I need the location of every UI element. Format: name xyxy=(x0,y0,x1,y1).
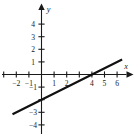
x-axis-label: x xyxy=(123,62,128,71)
y-tick-label-1: 1 xyxy=(31,58,35,67)
y-tick-label-2: 2 xyxy=(31,45,35,54)
x-axis-group xyxy=(2,71,134,77)
y-axis-group xyxy=(38,4,44,135)
y-axis-label: y xyxy=(46,5,51,14)
x-tick-label-6: 6 xyxy=(115,79,119,88)
x-tick-label--2: −2 xyxy=(12,79,20,88)
x-tick-label-2: 2 xyxy=(65,79,69,88)
x-tick-label-4: 4 xyxy=(90,79,94,88)
x-axis-arrow-icon xyxy=(127,71,134,77)
y-tick-label-4: 4 xyxy=(31,20,35,29)
y-tick-label--3: −3 xyxy=(29,108,37,117)
graph-figure: −2 −1 1 2 4 5 6 4 3 2 1 −1 −3 −4 x y xyxy=(0,0,135,138)
y-axis-arrow-icon xyxy=(38,4,44,11)
x-tick-label-1: 1 xyxy=(52,79,56,88)
coordinate-plane-svg: −2 −1 1 2 4 5 6 4 3 2 1 −1 −3 −4 x y xyxy=(0,0,135,138)
y-tick-label-3: 3 xyxy=(31,33,35,42)
y-tick-label--4: −4 xyxy=(29,121,37,130)
y-tick-label--1: −1 xyxy=(29,83,37,92)
x-tick-label-5: 5 xyxy=(103,79,107,88)
